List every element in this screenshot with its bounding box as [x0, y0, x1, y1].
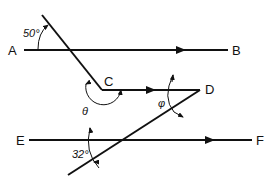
arc-32-arrow-start-icon: [90, 128, 91, 133]
angle-label-phi: φ: [158, 97, 165, 109]
point-label-a: A: [8, 43, 17, 58]
point-label-b: B: [232, 43, 241, 58]
angle-label-32: 32°: [72, 148, 89, 160]
transversal-from-d: [68, 90, 200, 175]
angle-label-50: 50°: [23, 27, 40, 39]
phi-arrow-end-icon: [174, 112, 183, 117]
theta-arrow-start-icon: [86, 83, 88, 84]
point-label-f: F: [256, 133, 264, 148]
line-ef: [29, 136, 252, 144]
transversal-to-c: [42, 15, 102, 90]
point-label-e: E: [16, 133, 25, 148]
angle-label-theta: θ: [82, 105, 88, 117]
geometry-diagram: A B C D E F 50° θ φ 32°: [0, 0, 274, 191]
point-label-d: D: [205, 82, 214, 97]
point-label-c: C: [104, 74, 113, 89]
direction-arrow-icon: [205, 136, 215, 144]
direction-arrow-icon: [176, 46, 186, 54]
line-ab: [24, 46, 228, 54]
line-cd: [102, 86, 200, 94]
direction-arrow-icon: [146, 86, 156, 94]
